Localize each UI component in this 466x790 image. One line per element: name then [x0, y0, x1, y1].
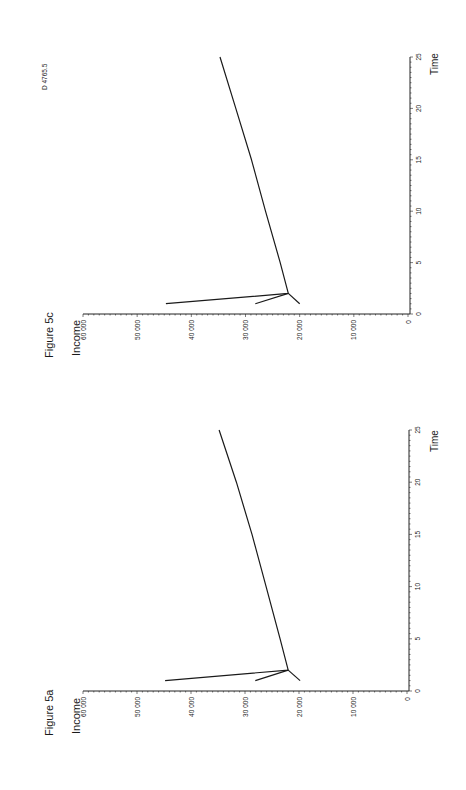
x-tick-label: 15 [415, 156, 422, 164]
x-tick-label: 0 [414, 689, 421, 693]
y-tick-label: 50 000 [134, 320, 141, 340]
x-tick-label: 10 [415, 207, 422, 215]
x-axis-label: Time [429, 430, 440, 452]
x-tick-label: 5 [415, 260, 422, 264]
y-tick-label: 40 000 [188, 320, 195, 340]
x-tick-label: 10 [414, 583, 421, 591]
figure-title: Figure 5a [43, 689, 55, 736]
data-lines [166, 57, 300, 304]
y-tick-label: 20 000 [296, 320, 303, 340]
y-tick-label: 30 000 [242, 320, 249, 340]
x-tick-label: 5 [414, 637, 421, 641]
figure-5c: Figure 5c Income Time 60 00050 00040 000… [43, 53, 440, 358]
x-tick-label: 25 [415, 53, 422, 61]
x-axis-label: Time [429, 53, 440, 75]
x-tick-label: 25 [414, 426, 421, 434]
figure-title: Figure 5c [43, 312, 55, 358]
page-canvas: D 4765.5 Figure 5c Income Time 60 00050 … [0, 0, 466, 790]
figure-5a: Figure 5a Income Time 60 00050 00040 000… [43, 426, 440, 736]
series-line-path-high-start [166, 57, 288, 304]
y-tick-label: 20 000 [296, 697, 303, 717]
y-tick-label: 60 000 [80, 320, 87, 340]
doc-code: D 4765.5 [41, 63, 48, 90]
y-tick-label: 0 [405, 320, 412, 324]
series-line-path-low-start [288, 293, 299, 303]
series-line-path-high-start [165, 430, 288, 681]
y-tick-label: 40 000 [188, 697, 195, 717]
axes [83, 430, 412, 694]
y-tick-label: 0 [404, 697, 411, 701]
x-tick-label: 15 [414, 530, 421, 538]
x-tick-label: 0 [415, 312, 422, 316]
y-tick-label: 50 000 [134, 697, 141, 717]
data-lines [165, 430, 300, 681]
axes [83, 57, 413, 317]
series-line-path-low-start [288, 670, 300, 681]
y-tick-label: 60 000 [80, 697, 87, 717]
y-tick-label: 30 000 [242, 697, 249, 717]
x-tick-label: 20 [414, 478, 421, 486]
y-tick-label: 10 000 [350, 697, 357, 717]
x-tick-label: 20 [415, 104, 422, 112]
y-tick-label: 10 000 [350, 320, 357, 340]
